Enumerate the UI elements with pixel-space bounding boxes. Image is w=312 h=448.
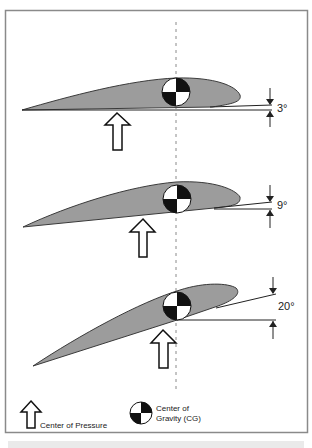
center-of-pressure-arrow — [151, 330, 176, 368]
angle-of-attack-diagram: 3° 9° — [0, 0, 312, 448]
center-of-pressure-arrow — [130, 219, 155, 257]
airfoil-panel-3deg: 3° — [22, 78, 288, 150]
angle-label: 3° — [277, 102, 288, 114]
angle-label: 20° — [278, 300, 295, 312]
angle-indicator-arrows — [269, 277, 277, 339]
legend: Center of Pressure Center of Gravity (CG… — [21, 401, 201, 430]
center-of-pressure-arrow — [105, 113, 130, 150]
airfoil-shape — [23, 182, 240, 227]
airfoil-shape — [33, 284, 238, 366]
center-of-gravity-legend-label-line2: Gravity (CG) — [156, 414, 201, 423]
airfoil-panel-20deg: 20° — [33, 277, 295, 368]
center-of-pressure-legend-label: Center of Pressure — [40, 421, 108, 430]
cropped-caption — [8, 441, 304, 448]
center-of-gravity-legend-icon — [130, 402, 152, 424]
center-of-pressure-legend-icon — [21, 401, 41, 428]
airfoil-shape — [22, 78, 240, 110]
center-of-gravity-legend-label-line1: Center of — [156, 404, 190, 413]
center-of-gravity-icon — [163, 292, 191, 320]
center-of-gravity-icon — [163, 185, 191, 213]
angle-label: 9° — [277, 199, 288, 211]
center-of-gravity-icon — [162, 78, 190, 106]
angle-indicator-arrows — [266, 88, 274, 127]
airfoil-panel-9deg: 9° — [23, 182, 288, 257]
angle-indicator-arrows — [266, 185, 274, 228]
